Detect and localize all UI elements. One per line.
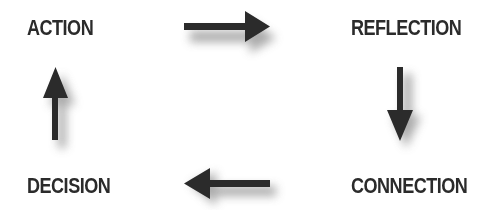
arrow-up-icon bbox=[0, 0, 481, 210]
